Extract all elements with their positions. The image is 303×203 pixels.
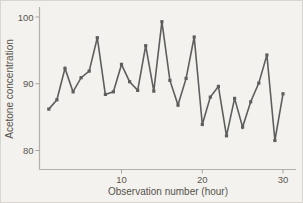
axes-layer	[40, 7, 297, 170]
y-axis-title: Acetone concentration	[4, 39, 15, 139]
chart-canvas: 8090100102030 Acetone concentration Obse…	[1, 1, 303, 203]
data-point-marker	[176, 104, 179, 107]
data-point-marker	[96, 36, 99, 39]
data-point-marker	[120, 63, 123, 66]
data-point-marker	[233, 97, 236, 100]
data-point-marker	[257, 82, 260, 85]
data-point-marker	[47, 108, 50, 111]
data-point-marker	[136, 89, 139, 92]
data-point-marker	[225, 134, 228, 137]
x-tick-label: 20	[197, 174, 208, 185]
data-point-marker	[217, 85, 220, 88]
y-tick-label: 80	[23, 145, 34, 156]
data-point-marker	[185, 77, 188, 80]
data-point-marker	[265, 53, 268, 56]
x-axis-title: Observation number (hour)	[108, 186, 228, 197]
acetone-run-chart-figure: 8090100102030 Acetone concentration Obse…	[0, 0, 303, 203]
ticks-layer: 8090100102030	[18, 12, 289, 185]
data-point-marker	[55, 98, 58, 101]
data-point-marker	[209, 96, 212, 99]
data-point-marker	[128, 80, 131, 83]
data-point-marker	[112, 90, 115, 93]
data-point-marker	[281, 92, 284, 95]
data-point-marker	[63, 67, 66, 70]
data-point-marker	[144, 44, 147, 47]
data-point-marker	[160, 20, 163, 23]
data-point-marker	[72, 90, 75, 93]
data-point-marker	[273, 139, 276, 142]
data-point-marker	[168, 79, 171, 82]
x-tick-label: 30	[278, 174, 289, 185]
data-point-marker	[88, 70, 91, 73]
data-point-marker	[80, 76, 83, 79]
y-tick-label: 100	[18, 12, 34, 23]
data-point-marker	[104, 93, 107, 96]
data-point-marker	[152, 90, 155, 93]
series-layer	[47, 20, 284, 142]
y-tick-label: 90	[23, 78, 34, 89]
data-point-marker	[241, 126, 244, 129]
data-point-marker	[249, 100, 252, 103]
series-line	[49, 22, 283, 141]
data-point-marker	[201, 123, 204, 126]
data-point-marker	[193, 35, 196, 38]
x-tick-label: 10	[116, 174, 127, 185]
